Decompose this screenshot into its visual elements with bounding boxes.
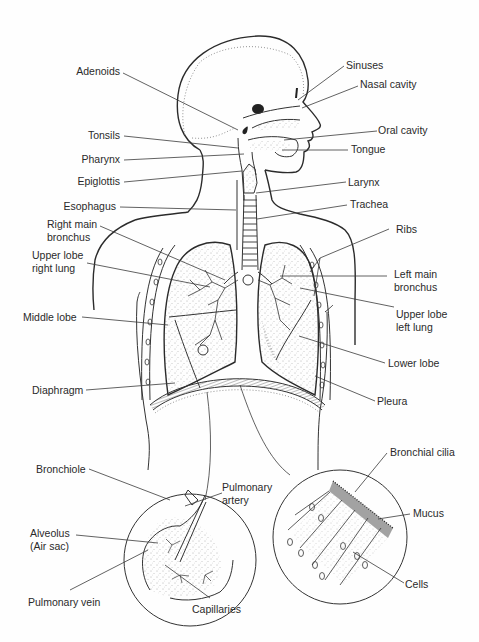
label-esophagus: Esophagus bbox=[36, 200, 116, 213]
respiratory-diagram: Adenoids Sinuses Nasal cavity Tonsils Or… bbox=[0, 0, 479, 642]
label-pleura: Pleura bbox=[377, 395, 407, 408]
label-right-main-bronchus: Right mainbronchus bbox=[47, 218, 97, 243]
label-left-main-bronchus: Left mainbronchus bbox=[394, 268, 437, 293]
label-trachea: Trachea bbox=[350, 198, 388, 211]
label-alveolus: Alveolus(Air sac) bbox=[30, 527, 70, 552]
left-lung bbox=[224, 242, 318, 395]
label-mucus: Mucus bbox=[413, 507, 444, 520]
label-pulmonary-artery: Pulmonaryartery bbox=[222, 481, 272, 506]
label-diaphragm: Diaphragm bbox=[32, 384, 83, 397]
label-middle-lobe: Middle lobe bbox=[23, 311, 77, 324]
label-capillaries: Capillaries bbox=[192, 603, 241, 616]
label-adenoids: Adenoids bbox=[40, 65, 120, 78]
label-oral-cavity: Oral cavity bbox=[378, 124, 428, 137]
label-pulmonary-vein: Pulmonary vein bbox=[28, 596, 100, 609]
label-lower-lobe: Lower lobe bbox=[388, 357, 439, 370]
label-nasal-cavity: Nasal cavity bbox=[360, 78, 417, 91]
label-larynx: Larynx bbox=[348, 176, 380, 189]
label-bronchiole: Bronchiole bbox=[36, 463, 86, 476]
label-upper-lobe-right-lung: Upper loberight lung bbox=[32, 249, 83, 274]
label-tongue: Tongue bbox=[351, 143, 385, 156]
trachea bbox=[237, 164, 258, 270]
label-ribs: Ribs bbox=[396, 223, 417, 236]
label-tonsils: Tonsils bbox=[40, 129, 120, 142]
label-pharynx: Pharynx bbox=[40, 153, 120, 166]
label-epiglottis: Epiglottis bbox=[40, 175, 120, 188]
label-sinuses: Sinuses bbox=[346, 59, 383, 72]
right-lung bbox=[164, 242, 238, 395]
cilia-inset bbox=[273, 470, 407, 604]
label-upper-lobe-left-lung: Upper lobeleft lung bbox=[396, 308, 447, 333]
label-cells: Cells bbox=[405, 578, 428, 591]
label-bronchial-cilia: Bronchial cilia bbox=[390, 446, 455, 459]
